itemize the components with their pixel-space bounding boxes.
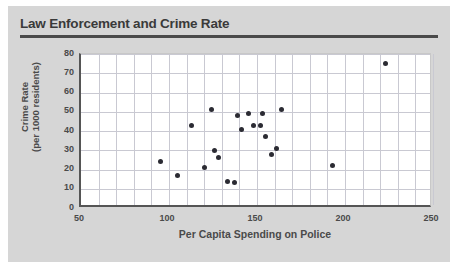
gridline-vertical (134, 54, 135, 205)
x-axis-ticks: 50100150200250 (79, 213, 431, 225)
gridline-horizontal (81, 93, 430, 94)
y-tick-label: 70 (48, 68, 74, 77)
y-axis-ticks: 01020304050607080 (46, 53, 74, 207)
y-axis-label-line2: (per 1000 residents) (30, 62, 41, 152)
gridline-vertical (116, 54, 117, 205)
x-axis-label: Per Capita Spending on Police (79, 228, 431, 240)
data-point (158, 159, 163, 164)
data-point (212, 148, 217, 153)
gridline-vertical (151, 54, 152, 205)
gridline-horizontal (81, 54, 430, 55)
y-tick-label: 20 (48, 164, 74, 173)
data-point (263, 134, 268, 139)
gridline-vertical (275, 54, 276, 205)
x-tick-label: 250 (411, 213, 451, 223)
y-tick-label: 0 (48, 203, 74, 212)
gridline-vertical (204, 54, 205, 205)
data-point (202, 165, 207, 170)
y-tick-label: 80 (48, 49, 74, 58)
gridline-vertical (99, 54, 100, 205)
data-point (260, 111, 265, 116)
gridline-vertical (433, 54, 434, 205)
gridline-vertical (380, 54, 381, 205)
y-tick-label: 60 (48, 87, 74, 96)
data-point (330, 163, 335, 168)
x-tick-label: 150 (235, 213, 275, 223)
gridline-vertical (222, 54, 223, 205)
x-tick-label: 200 (323, 213, 363, 223)
gridline-vertical (363, 54, 364, 205)
gridline-horizontal (81, 131, 430, 132)
y-tick-label: 50 (48, 106, 74, 115)
gridline-vertical (327, 54, 328, 205)
gridline-vertical (398, 54, 399, 205)
data-point (251, 123, 256, 128)
y-tick-label: 10 (48, 183, 74, 192)
data-point (175, 173, 180, 178)
data-point (258, 123, 263, 128)
data-point (383, 61, 388, 66)
x-tick-label: 50 (59, 213, 99, 223)
y-axis-label-line1: Crime Rate (19, 82, 30, 132)
y-tick-label: 30 (48, 145, 74, 154)
data-point (246, 111, 251, 116)
scatter-chart: 01020304050607080 50100150200250 Crime R… (0, 0, 458, 273)
y-tick-label: 40 (48, 126, 74, 135)
data-point (216, 155, 221, 160)
y-axis-label: Crime Rate (per 1000 residents) (19, 37, 41, 177)
gridline-vertical (169, 54, 170, 205)
data-point (225, 179, 230, 184)
gridline-horizontal (81, 189, 430, 190)
gridline-horizontal (81, 170, 430, 171)
x-tick-label: 100 (147, 213, 187, 223)
plot-area (79, 53, 431, 207)
gridline-vertical (345, 54, 346, 205)
data-point (269, 152, 274, 157)
data-point (232, 180, 237, 185)
data-point (274, 146, 279, 151)
gridline-vertical (310, 54, 311, 205)
data-point (189, 123, 194, 128)
gridline-vertical (292, 54, 293, 205)
gridline-horizontal (81, 150, 430, 151)
gridline-horizontal (81, 73, 430, 74)
gridline-vertical (187, 54, 188, 205)
data-point (239, 127, 244, 132)
gridline-horizontal (81, 112, 430, 113)
gridline-vertical (257, 54, 258, 205)
gridline-vertical (415, 54, 416, 205)
